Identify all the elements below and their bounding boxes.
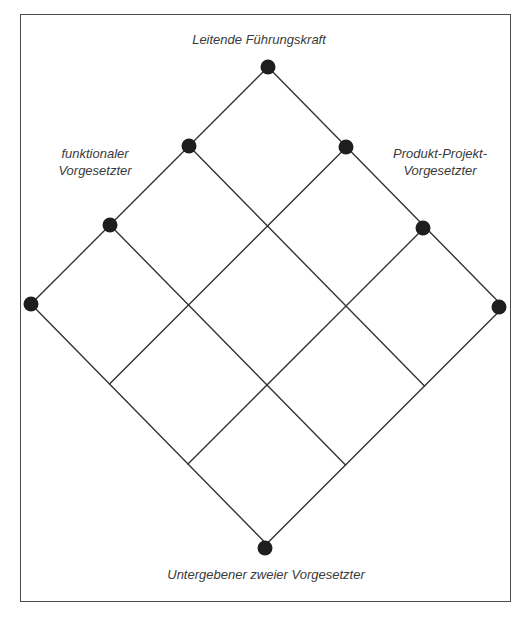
label-top-executive: Leitende Führungskraft xyxy=(192,31,326,48)
label-functional-supervisor: funktionaler Vorgesetzter xyxy=(58,145,131,179)
top-node xyxy=(261,60,276,75)
functional-node-2 xyxy=(103,218,118,233)
lattice-line-ascending xyxy=(110,147,347,384)
lattice-line-descending xyxy=(268,67,504,307)
label-product-line-2: Vorgesetzter xyxy=(393,162,487,179)
product-node-1 xyxy=(339,140,354,155)
lattice-lines xyxy=(31,67,504,544)
lattice-diagram xyxy=(0,0,526,619)
product-node-3 xyxy=(492,300,507,315)
label-functional-line-2: Vorgesetzter xyxy=(58,162,131,179)
functional-node-1 xyxy=(182,139,197,154)
product-node-2 xyxy=(416,221,431,236)
label-bottom-text: Untergebener zweier Vorgesetzter xyxy=(167,566,365,583)
lattice-line-descending xyxy=(31,304,267,544)
lattice-line-ascending xyxy=(267,307,504,544)
lattice-line-ascending xyxy=(31,67,268,304)
label-top-text: Leitende Führungskraft xyxy=(192,31,326,48)
lattice-line-descending xyxy=(110,225,346,465)
lattice-nodes xyxy=(24,60,507,556)
label-subordinate: Untergebener zweier Vorgesetzter xyxy=(167,566,365,583)
label-product-line-1: Produkt-Projekt- xyxy=(393,145,487,162)
lattice-line-descending xyxy=(189,146,425,386)
label-functional-line-1: funktionaler xyxy=(58,145,131,162)
lattice-line-ascending xyxy=(188,227,425,464)
functional-node-3 xyxy=(24,297,39,312)
label-product-project-supervisor: Produkt-Projekt- Vorgesetzter xyxy=(393,145,487,179)
bottom-node xyxy=(258,541,273,556)
